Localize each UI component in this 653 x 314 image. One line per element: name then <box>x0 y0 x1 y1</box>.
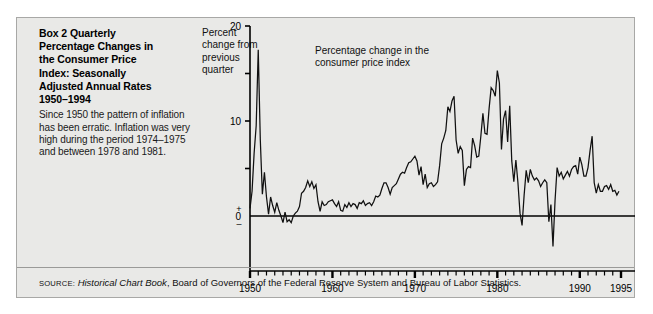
source-publication: Historical Chart Book <box>78 277 167 288</box>
svg-text:10: 10 <box>230 116 242 127</box>
svg-text:1990: 1990 <box>569 283 592 294</box>
chart-tick-labels: 01020+–195019601970198019901995 <box>230 21 633 294</box>
svg-text:20: 20 <box>230 21 242 32</box>
source-line: source: Historical Chart Book, Board of … <box>39 277 521 288</box>
chart-series <box>250 50 619 247</box>
svg-text:+: + <box>236 204 241 214</box>
cpi-line-chart: 01020+–195019601970198019901995 <box>17 18 636 299</box>
figure-box: Box 2 Quarterly Percentage Changes in th… <box>16 17 635 298</box>
chart-axes <box>245 26 635 278</box>
svg-text:1995: 1995 <box>610 283 633 294</box>
source-divider <box>17 267 634 268</box>
svg-text:–: – <box>236 219 241 229</box>
source-kicker: source: <box>39 279 75 288</box>
figure-inner: Box 2 Quarterly Percentage Changes in th… <box>17 18 634 297</box>
source-rest: , Board of Governors of the Federal Rese… <box>167 277 521 288</box>
